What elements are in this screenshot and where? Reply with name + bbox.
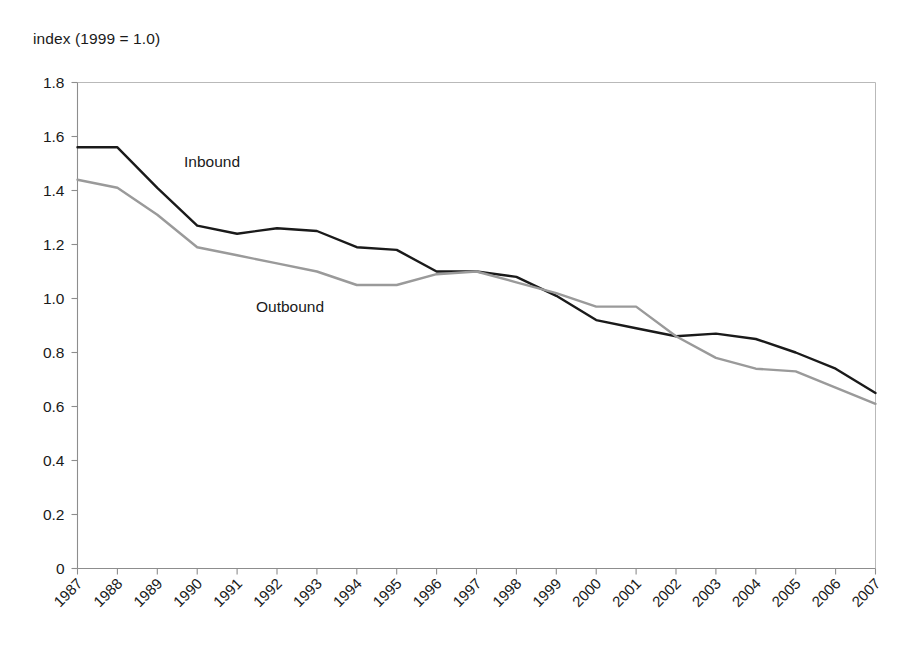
y-tick-label: 1.0	[43, 290, 65, 307]
x-tick-label: 2006	[808, 575, 844, 611]
x-tick-label: 2002	[649, 575, 685, 611]
y-tick-label: 0.2	[43, 506, 65, 523]
series-line-outbound	[78, 180, 876, 404]
x-tick-label: 2003	[688, 575, 724, 611]
y-tick-label: 1.8	[43, 74, 65, 91]
y-tick-label: 0.4	[43, 452, 65, 469]
x-tick-label: 2000	[569, 575, 605, 611]
x-tick-label: 1995	[369, 575, 405, 611]
chart-figure: index (1999 = 1.0) 00.20.40.60.81.01.21.…	[0, 0, 909, 652]
data-series-group	[78, 147, 876, 404]
x-tick-label: 1988	[90, 575, 126, 611]
x-axis-ticks: 1987198819891990199119921993199419951996…	[50, 569, 884, 611]
line-chart-canvas: 00.20.40.60.81.01.21.41.61.8 19871988198…	[0, 0, 909, 652]
x-tick-label: 1994	[329, 575, 365, 611]
series-annotations: InboundOutbound	[184, 153, 324, 315]
x-tick-label: 1992	[250, 575, 286, 611]
series-line-inbound	[78, 147, 876, 393]
x-tick-label: 1996	[409, 575, 445, 611]
x-tick-label: 1998	[489, 575, 525, 611]
x-tick-label: 1999	[529, 575, 565, 611]
x-tick-label: 1987	[50, 575, 86, 611]
y-tick-label: 0	[56, 560, 65, 577]
x-tick-label: 1993	[289, 575, 325, 611]
y-tick-label: 0.8	[43, 344, 65, 361]
series-label-inbound: Inbound	[184, 153, 240, 170]
x-tick-label: 1989	[130, 575, 166, 611]
x-tick-label: 1991	[210, 575, 246, 611]
y-tick-label: 1.4	[43, 182, 65, 199]
x-tick-label: 2007	[848, 575, 884, 611]
series-label-outbound: Outbound	[256, 298, 324, 315]
x-tick-label: 2005	[768, 575, 804, 611]
y-tick-label: 1.2	[43, 236, 65, 253]
y-axis-ticks: 00.20.40.60.81.01.21.41.61.8	[43, 74, 78, 577]
x-tick-label: 2004	[728, 575, 764, 611]
x-tick-label: 2001	[609, 575, 645, 611]
x-tick-label: 1997	[449, 575, 485, 611]
x-tick-label: 1990	[170, 575, 206, 611]
y-tick-label: 1.6	[43, 128, 65, 145]
y-tick-label: 0.6	[43, 398, 65, 415]
